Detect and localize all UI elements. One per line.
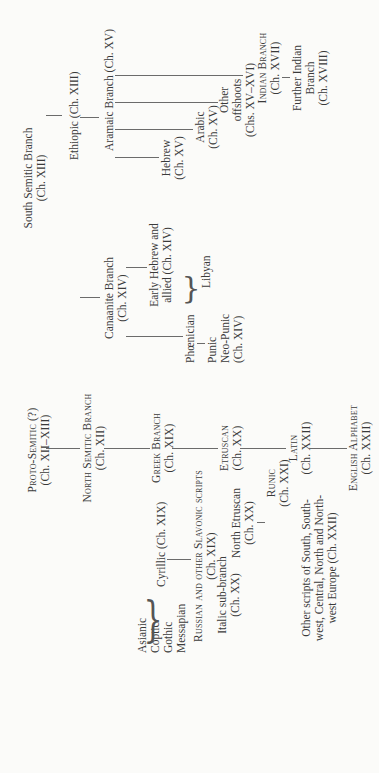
node-other-offshoots: Other offshoots (Chs. XV–XVI) <box>218 45 257 155</box>
connector-phoenician-to-punic <box>197 343 205 344</box>
connector-greek-to-etruscan <box>172 448 218 449</box>
node-cyrillic: Cyrillic (Ch. XIX) <box>155 502 168 587</box>
connector-south-to-ethiopic <box>46 115 62 116</box>
label: English Alphabet <box>347 383 360 513</box>
connector-proto-to-north <box>46 448 80 449</box>
connector-cyrillic-to-russian <box>167 559 191 560</box>
connector-to-aramaic <box>80 117 99 118</box>
node-north-etruscan: North Etruscan (Ch. XX) <box>230 433 256 613</box>
alphabet-family-tree-diagram: Proto-Semitic (?) (Ch. XII–XIII) North S… <box>0 0 379 773</box>
connector-latin-to-english <box>309 448 347 449</box>
node-ethiopic: Ethiopic (Ch. XIII) <box>68 72 81 160</box>
connector-indian-to-further-indian <box>282 77 290 78</box>
connector-canaanite-to-early-hebrew <box>126 267 147 268</box>
brace-asianic-group: } <box>143 596 162 644</box>
connector-canaanite-to-phoenician <box>126 336 183 337</box>
brace-phoenician-libyan: } <box>181 273 200 303</box>
chapter: (Ch. XXII) <box>360 383 373 513</box>
chapter: (Ch. XIII) <box>35 108 48 248</box>
node-russian-slavonic: Russian and other Slavonic scripts (Ch. … <box>192 451 218 661</box>
label: Greek Branch <box>150 393 163 503</box>
node-aramaic-branch: Aramaic Branch (Ch. XV) <box>103 29 116 151</box>
node-indian-branch: Indian Branch (Ch. XVII) <box>256 18 282 118</box>
connector-north-etruscan-to-runic <box>257 522 265 523</box>
label: South Semitic Branch <box>22 108 35 248</box>
node-hebrew: Hebrew (Ch. XV) <box>160 123 186 193</box>
connector-aramaic-to-hebrew <box>115 157 159 158</box>
node-libyan: Libyan <box>200 255 213 288</box>
connector-to-canaanite <box>80 297 100 298</box>
label: Proto-Semitic (?) <box>26 390 39 510</box>
node-phoenician: Phœnician <box>184 314 197 363</box>
node-proto-semitic: Proto-Semitic (?) (Ch. XII–XIII) <box>26 390 52 510</box>
connector-north-to-greek <box>104 448 150 449</box>
node-english-alphabet: English Alphabet (Ch. XXII) <box>347 383 373 513</box>
node-other-european-scripts: Other scripts of South, South- west, Cen… <box>300 463 339 673</box>
node-punic-group: Punic Neo-Punic (Ch. XIV) <box>206 314 245 363</box>
node-further-indian: Further Indian Branch (Ch. XVIII) <box>291 23 330 133</box>
chapter: (Ch. XII–XIII) <box>39 390 52 510</box>
connector-aramaic-to-other-offshoots <box>115 102 218 103</box>
connector-aramaic-to-indian <box>115 75 243 76</box>
node-early-hebrew: Early Hebrew and allied (Ch. XIV) <box>148 210 174 320</box>
node-south-semitic: South Semitic Branch (Ch. XIII) <box>22 108 48 248</box>
node-runic: Runic (Ch. XXI) <box>265 403 291 563</box>
label: North Semitic Branch <box>81 378 94 518</box>
connector-aramaic-to-arabic <box>115 129 193 130</box>
